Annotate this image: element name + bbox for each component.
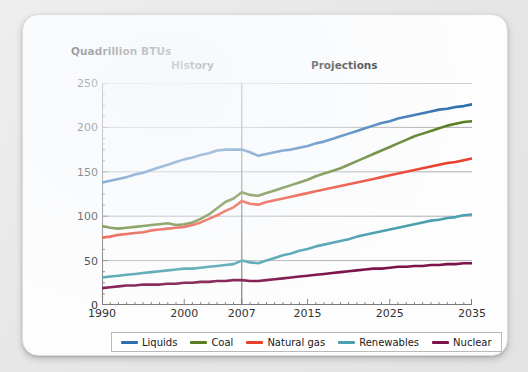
- screenshot-root: Quadrillion BTUs History Projections 050…: [0, 0, 528, 372]
- legend-item-nuclear[interactable]: Nuclear: [432, 337, 492, 348]
- y-tick-label-250: 250: [64, 77, 98, 90]
- legend-item-renewables[interactable]: Renewables: [338, 337, 419, 348]
- y-tick-label-150: 150: [64, 165, 98, 178]
- y-tick-label-200: 200: [64, 121, 98, 134]
- legend-label: Coal: [211, 337, 233, 348]
- x-tick-label-2015: 2015: [294, 307, 322, 320]
- plot-area: [102, 83, 472, 305]
- legend-label: Natural gas: [267, 337, 325, 348]
- legend-label: Liquids: [142, 337, 177, 348]
- legend-item-coal[interactable]: Coal: [190, 337, 233, 348]
- chart-card: Quadrillion BTUs History Projections 050…: [22, 14, 508, 356]
- legend-item-liquids[interactable]: Liquids: [121, 337, 177, 348]
- history-region-label: History: [171, 59, 214, 71]
- y-axis-title: Quadrillion BTUs: [71, 45, 171, 57]
- y-axis-tick-labels: 050100150200250: [62, 83, 98, 305]
- x-tick-label-2007: 2007: [228, 307, 256, 320]
- legend-swatch-nuclear: [432, 341, 449, 344]
- series-line-coal: [102, 121, 472, 228]
- x-axis-tick-labels: 199020002007201520252035: [102, 307, 472, 325]
- chart-legend: LiquidsCoalNatural gasRenewablesNuclear: [111, 332, 502, 352]
- legend-item-natural-gas[interactable]: Natural gas: [246, 337, 325, 348]
- x-tick-label-1990: 1990: [88, 307, 116, 320]
- legend-swatch-coal: [190, 341, 207, 344]
- legend-label: Renewables: [359, 337, 419, 348]
- series-line-nuclear: [102, 263, 472, 288]
- x-tick-label-2025: 2025: [376, 307, 404, 320]
- legend-swatch-renewables: [338, 341, 355, 344]
- x-tick-label-2035: 2035: [458, 307, 486, 320]
- line-chart-svg: [102, 83, 472, 305]
- legend-swatch-natural-gas: [246, 341, 263, 344]
- x-tick-label-2000: 2000: [170, 307, 198, 320]
- projections-region-label: Projections: [311, 59, 378, 71]
- legend-label: Nuclear: [453, 337, 492, 348]
- y-tick-label-50: 50: [64, 254, 98, 267]
- legend-swatch-liquids: [121, 341, 138, 344]
- y-tick-label-100: 100: [64, 210, 98, 223]
